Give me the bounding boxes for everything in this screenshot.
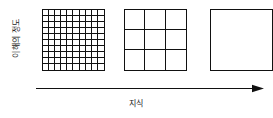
grid-cell xyxy=(211,10,272,70)
fine-grid-square xyxy=(42,9,105,71)
grid-cell xyxy=(125,50,145,70)
y-axis-label: 이해의 정도 xyxy=(0,0,34,76)
grid-cell xyxy=(145,10,165,30)
grid-cell xyxy=(145,50,165,70)
grid-cell xyxy=(166,30,186,50)
y-axis-label-text: 이해의 정도 xyxy=(13,18,21,57)
grid-cell xyxy=(166,50,186,70)
grid-cell xyxy=(145,30,165,50)
grid-cell xyxy=(125,10,145,30)
grid-cell xyxy=(125,30,145,50)
grid-cell xyxy=(98,64,104,70)
concept-diagram: 이해의 정도 지식 xyxy=(0,0,273,118)
x-axis-label-text: 지식 xyxy=(129,99,144,108)
coarse-grid-square xyxy=(210,9,273,71)
grid-cell xyxy=(166,10,186,30)
arrow-right-icon xyxy=(36,84,264,93)
squares-row xyxy=(36,9,266,71)
x-axis-label: 지식 xyxy=(0,97,273,108)
medium-grid-square xyxy=(124,9,187,71)
